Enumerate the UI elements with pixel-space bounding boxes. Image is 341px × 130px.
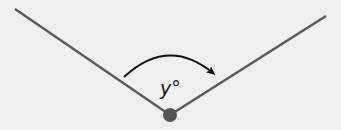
right-ray: [170, 16, 326, 115]
vertex-dot: [163, 108, 177, 122]
angle-svg: [0, 0, 341, 130]
angle-diagram: y°: [0, 0, 341, 130]
angle-label: y°: [160, 77, 181, 99]
angle-arc-arrow: [124, 55, 213, 77]
